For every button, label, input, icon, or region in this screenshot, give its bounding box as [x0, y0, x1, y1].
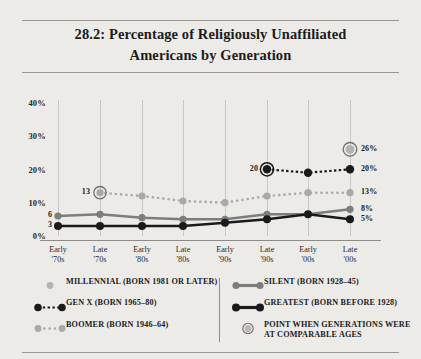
legend-item-greatest: GREATEST (BORN BEFORE 1928): [232, 298, 421, 310]
legend-item-genx: GEN X (BORN 1965–80): [34, 298, 249, 310]
x-tick-1-top: Late: [93, 245, 108, 254]
value-label-millennial-end: 26%: [361, 144, 377, 153]
legend-item-silent: SILENT (BORN 1928–45): [232, 276, 421, 288]
y-tick-label-0: 0%: [16, 231, 46, 241]
x-tick-label-0: Early '70s: [35, 245, 81, 266]
legend-item-boomer: BOOMER (BORN 1946–64): [34, 319, 249, 331]
x-tick-label-6: Early '00s: [285, 245, 331, 266]
x-tick-1-bottom: '70s: [94, 255, 107, 264]
figure-page: 28.2: Percentage of Religiously Unaffili…: [0, 0, 421, 359]
x-tick-label-3: Late '80s: [160, 245, 206, 266]
x-tick-label-4: Early '90s: [202, 245, 248, 266]
legend-label-genx: GEN X (BORN 1965–80): [66, 298, 157, 309]
x-tick-6-bottom: '00s: [302, 255, 315, 264]
x-tick-label-1: Late '70s: [77, 245, 123, 266]
title-rule-bottom: [22, 72, 399, 73]
legend-label-comparable-ages: POINT WHEN GENERATIONS WERE AT COMPARABL…: [264, 319, 411, 341]
chart-plot-area: 40% 30% 20% 10% 0%: [0, 86, 421, 254]
y-tick-label-40: 40%: [16, 98, 46, 108]
x-tick-4-top: Early: [216, 245, 234, 254]
x-tick-2-top: Early: [133, 245, 151, 254]
title-rule-top: [22, 20, 399, 21]
figure-bottom-rule: [22, 352, 399, 353]
chart-legend: MILLENNIAL (BORN 1981 OR LATER) GEN X (B…: [0, 276, 421, 348]
x-tick-7-top: Late: [343, 245, 358, 254]
legend-item-comparable-ages: POINT WHEN GENERATIONS WERE AT COMPARABL…: [232, 319, 421, 341]
x-tick-label-7: Late '00s: [327, 245, 373, 266]
x-tick-3-bottom: '80s: [177, 255, 190, 264]
legend-label-silent: SILENT (BORN 1928–45): [264, 276, 359, 287]
silent-swatch-icon: [232, 277, 264, 288]
value-label-boomer-start: 13: [74, 187, 90, 196]
x-tick-7-bottom: '00s: [344, 255, 357, 264]
title-line-1: 28.2: Percentage of Religiously Unaffili…: [75, 26, 347, 42]
value-label-genx-start: 20: [240, 164, 258, 173]
legend-column-right: SILENT (BORN 1928–45) GREATEST (BORN BEF…: [232, 276, 421, 350]
x-tick-label-5: Late '90s: [244, 245, 290, 266]
x-tick-5-bottom: '90s: [261, 255, 274, 264]
greatest-swatch-icon: [232, 299, 264, 310]
value-label-silent-end: 8%: [361, 204, 373, 213]
legend-label-greatest: GREATEST (BORN BEFORE 1928): [264, 298, 397, 309]
highlight-ring-icon: [232, 320, 264, 331]
value-label-boomer-end: 13%: [361, 187, 377, 196]
series-genx: [260, 163, 354, 177]
value-label-silent-start: 6: [36, 210, 52, 219]
legend-label-millennial: MILLENNIAL (BORN 1981 OR LATER): [66, 276, 217, 287]
page-title: 28.2: Percentage of Religiously Unaffili…: [22, 24, 399, 65]
boomer-swatch-icon: [34, 320, 66, 331]
legend-item-millennial: MILLENNIAL (BORN 1981 OR LATER): [34, 276, 249, 288]
millennial-swatch-icon: [34, 277, 66, 288]
x-tick-0-bottom: '70s: [52, 255, 65, 264]
x-tick-label-2: Early '80s: [119, 245, 165, 266]
y-tick-label-30: 30%: [16, 131, 46, 141]
legend-column-left: MILLENNIAL (BORN 1981 OR LATER) GEN X (B…: [34, 276, 249, 341]
series-boomer: [94, 187, 354, 207]
value-label-greatest-start: 3: [36, 220, 52, 229]
x-tick-2-bottom: '80s: [136, 255, 149, 264]
genx-swatch-icon: [34, 299, 66, 310]
x-tick-0-top: Early: [49, 245, 67, 254]
value-label-genx-end: 20%: [361, 164, 377, 173]
x-tick-3-top: Late: [176, 245, 191, 254]
x-tick-6-top: Early: [299, 245, 317, 254]
legend-label-comparable-ages-line1: POINT WHEN GENERATIONS WERE: [264, 320, 411, 329]
legend-label-comparable-ages-line2: AT COMPARABLE AGES: [264, 330, 362, 339]
value-label-greatest-end: 5%: [361, 214, 373, 223]
title-line-2: Americans by Generation: [130, 47, 292, 63]
legend-label-boomer: BOOMER (BORN 1946–64): [66, 319, 168, 330]
y-tick-label-10: 10%: [16, 198, 46, 208]
x-tick-4-bottom: '90s: [219, 255, 232, 264]
x-tick-5-top: Late: [260, 245, 275, 254]
y-tick-label-20: 20%: [16, 165, 46, 175]
line-chart-svg: [0, 86, 421, 254]
